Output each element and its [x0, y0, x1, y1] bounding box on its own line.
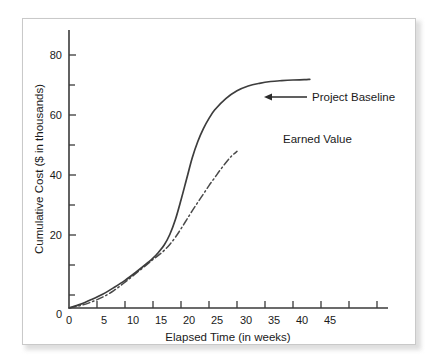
y-tick-label-0: 0 [56, 308, 62, 320]
y-tick-label-60: 60 [50, 109, 62, 121]
x-tick-label-0: 0 [66, 314, 72, 326]
earned-value-annotation-label: Earned Value [283, 133, 352, 145]
y-tick-marks [69, 55, 76, 295]
x-tick-label-25: 25 [211, 314, 223, 326]
annotation-project-baseline: Project Baseline [264, 91, 395, 103]
x-tick-label-10: 10 [127, 314, 139, 326]
y-axis-title: Cumulative Cost ($ in thousands) [33, 84, 45, 254]
y-tick-label-80: 80 [50, 49, 62, 61]
x-tick-marks [97, 301, 377, 308]
x-tick-label-40: 40 [296, 314, 308, 326]
arrow-head-icon [264, 94, 272, 101]
axis-group [69, 30, 388, 308]
y-tick-label-20: 20 [50, 229, 62, 241]
baseline-annotation-label: Project Baseline [312, 91, 395, 103]
series-earned-value-line [69, 151, 237, 308]
annotation-earned-value: Earned Value [283, 133, 352, 145]
x-tick-label-15: 15 [155, 314, 167, 326]
x-tick-label-45: 45 [324, 314, 336, 326]
s-curve-chart: 80 60 40 20 0 0 5 10 15 20 25 [0, 0, 440, 357]
x-tick-label-35: 35 [268, 314, 280, 326]
series-project-baseline-line [69, 79, 310, 308]
data-series-group [69, 79, 310, 308]
x-axis-title: Elapsed Time (in weeks) [165, 331, 290, 343]
y-tick-label-40: 40 [50, 169, 62, 181]
x-tick-label-5: 5 [101, 314, 107, 326]
x-tick-labels: 0 5 10 15 20 25 30 35 40 45 [66, 314, 336, 326]
figure-container: 80 60 40 20 0 0 5 10 15 20 25 [0, 0, 440, 357]
x-tick-label-30: 30 [240, 314, 252, 326]
y-tick-labels: 80 60 40 20 0 [50, 49, 62, 320]
x-tick-label-20: 20 [183, 314, 195, 326]
